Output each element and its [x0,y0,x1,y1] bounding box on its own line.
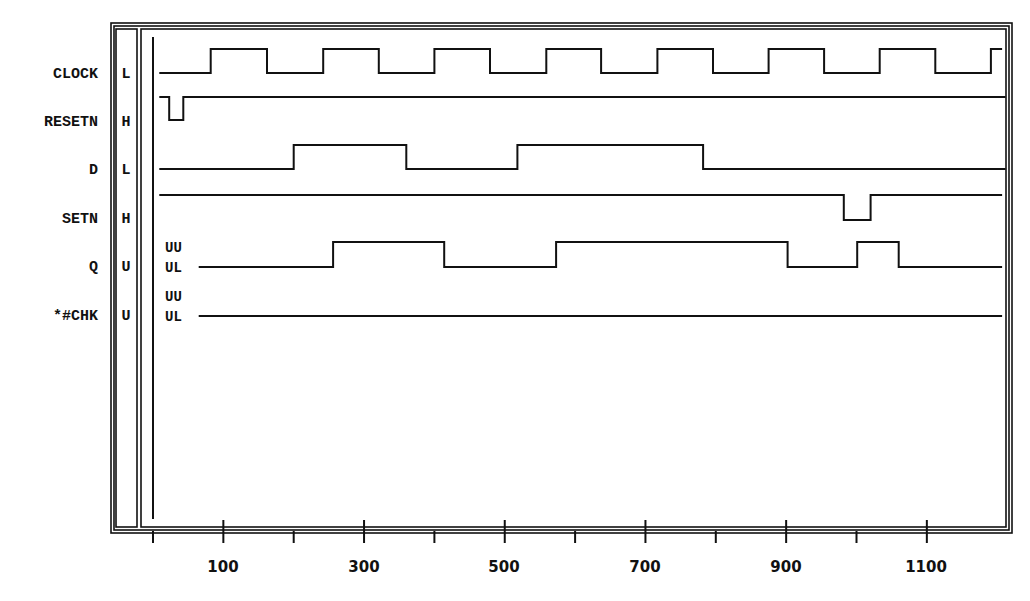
signal-name-setn[interactable]: SETN [62,211,98,228]
signal-value-d: L [121,162,130,179]
signal-name-d[interactable]: D [89,162,98,179]
chk-annotation-ul: UL [165,309,182,325]
signal-value-q: U [121,259,130,276]
q-annotation-ul: UL [165,260,182,276]
chk-unknown-annotation: UU UL [165,289,182,325]
value-column-frame [116,29,137,527]
tick-label-100: 100 [207,558,238,576]
signal-value-resetn: H [121,114,130,131]
tick-label-900: 900 [770,558,801,576]
signal-value-column: L H L H U U [121,66,130,325]
tick-label-1100: 1100 [905,558,947,576]
timing-diagram: CLOCK RESETN D SETN Q *#CHK L H L H U U … [0,0,1030,601]
outer-frame [111,23,1012,533]
chk-annotation-uu: UU [165,289,182,305]
signal-name-resetn[interactable]: RESETN [44,114,98,131]
waveform-setn[interactable] [159,195,1002,220]
waveform-d[interactable] [159,145,1005,169]
signal-name-clock[interactable]: CLOCK [53,66,98,83]
signal-value-clock: L [121,66,130,83]
signal-name-q[interactable]: Q [89,259,98,276]
waveform-clock[interactable] [159,49,1002,73]
time-axis-labels: 100 300 500 700 900 1100 [207,558,947,576]
waveforms [159,49,1005,316]
waveform-q[interactable] [199,242,1002,267]
q-unknown-annotation: UU UL [165,240,182,276]
signal-value-chk: U [121,308,130,325]
signal-name-column: CLOCK RESETN D SETN Q *#CHK [44,66,98,325]
waveform-panel-frame [141,29,1006,527]
tick-label-700: 700 [629,558,660,576]
q-annotation-uu: UU [165,240,182,256]
tick-label-300: 300 [348,558,379,576]
waveform-resetn[interactable] [159,97,1005,120]
tick-label-500: 500 [488,558,519,576]
signal-value-setn: H [121,211,130,228]
time-axis [153,520,927,543]
signal-name-chk[interactable]: *#CHK [53,308,98,325]
